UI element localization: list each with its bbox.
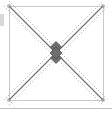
left-edge-tab [0,14,4,26]
diagram-canvas [0,0,112,113]
handle-group[interactable] [50,42,62,64]
construction-diagram [0,0,112,113]
